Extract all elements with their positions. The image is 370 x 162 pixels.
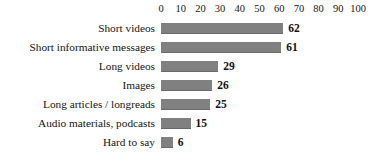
bar [161,80,212,91]
x-axis-tick-50: 50 [254,2,265,15]
bar-track: 25 [161,95,370,114]
bar-row: Short videos62 [0,19,370,38]
bar-value-label: 6 [178,133,184,152]
category-label: Long articles / longreads [0,95,155,114]
bar-track: 61 [161,38,370,57]
bar [161,99,210,110]
bar [161,42,281,53]
x-axis-tick-100: 100 [350,2,366,15]
category-label: Short videos [0,19,155,38]
bar-track: 6 [161,133,370,152]
bar-value-label: 29 [223,57,235,76]
bar-track: 26 [161,76,370,95]
bar-row: Images26 [0,76,370,95]
x-axis-tick-10: 10 [175,2,186,15]
x-axis-tick-60: 60 [274,2,285,15]
bar-row: Short informative messages61 [0,38,370,57]
bar [161,61,218,72]
x-axis-tick-90: 90 [333,2,344,15]
bar-rows: Short videos62Short informative messages… [0,19,370,152]
x-axis-tick-labels: 0102030405060708090100 [161,2,358,15]
category-label: Short informative messages [0,38,155,57]
category-label: Long videos [0,57,155,76]
bar-value-label: 61 [286,38,298,57]
bar-track: 15 [161,114,370,133]
x-axis-tick-80: 80 [313,2,324,15]
x-axis-tick-30: 30 [215,2,226,15]
bar-chart: 0102030405060708090100 Short videos62Sho… [0,0,370,162]
x-axis-tick-0: 0 [158,2,163,15]
category-label: Images [0,76,155,95]
x-axis-tick-20: 20 [195,2,206,15]
bar-row: Long articles / longreads25 [0,95,370,114]
bar-value-label: 15 [196,114,208,133]
x-axis-tick-70: 70 [294,2,305,15]
bar [161,137,173,148]
bar-track: 62 [161,19,370,38]
bar-row: Audio materials, podcasts15 [0,114,370,133]
bar-row: Long videos29 [0,57,370,76]
x-axis-tick-40: 40 [235,2,246,15]
bar-row: Hard to say6 [0,133,370,152]
bar-value-label: 26 [217,76,229,95]
category-label: Hard to say [0,133,155,152]
bar-track: 29 [161,57,370,76]
bar [161,23,283,34]
bar-value-label: 62 [288,19,300,38]
bar [161,118,191,129]
category-label: Audio materials, podcasts [0,114,155,133]
bar-value-label: 25 [215,95,227,114]
